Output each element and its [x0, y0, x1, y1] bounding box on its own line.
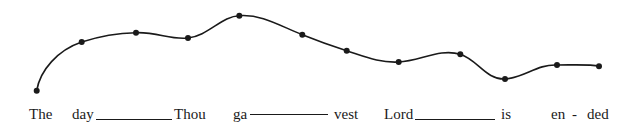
syllable-is: is [501, 105, 511, 123]
pitch-dot [596, 63, 602, 69]
syllable-lord: Lord [384, 105, 413, 123]
syllable-vest: vest [334, 105, 358, 123]
syllable-hyphen: - [572, 105, 577, 123]
pitch-dot [236, 13, 242, 19]
pitch-dot [457, 51, 463, 57]
pitch-dot [79, 39, 85, 45]
lord-extender-line [415, 119, 495, 120]
ga-hyphen-line [250, 114, 328, 115]
syllable-ded: ded [587, 105, 609, 123]
syllable-day: day [72, 105, 94, 123]
syllable-the: The [29, 105, 52, 123]
pitch-dot [554, 62, 560, 68]
pitch-dot [185, 35, 191, 41]
contour-dots [34, 13, 602, 94]
syllable-en: en [551, 105, 565, 123]
melodic-contour [0, 0, 637, 129]
pitch-dot [396, 59, 402, 65]
contour-curve [37, 16, 599, 91]
syllable-thou: Thou [174, 105, 206, 123]
pitch-dot [299, 32, 305, 38]
pitch-dot [344, 48, 350, 54]
pitch-dot [34, 88, 40, 94]
pitch-dot [502, 76, 508, 82]
syllable-ga: ga [233, 105, 247, 123]
day-extender-line [96, 119, 172, 120]
pitch-dot [133, 30, 139, 36]
